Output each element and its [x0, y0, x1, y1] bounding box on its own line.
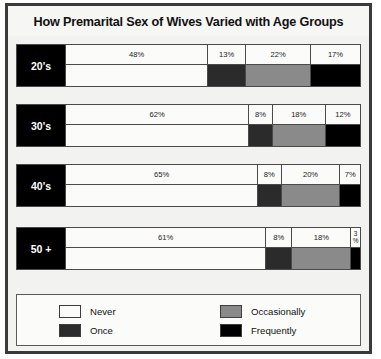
legend-column: NeverOnce — [59, 302, 116, 340]
age-group-row: 40's65%8%20%7% — [16, 164, 361, 207]
bar-segment — [339, 185, 360, 206]
legend-item: Once — [59, 321, 116, 340]
legend-column: OccasionallyFrequently — [220, 302, 305, 340]
bar-segment — [248, 125, 272, 146]
stacked-bar: 65%8%20%7% — [65, 165, 360, 206]
legend-swatch-icon — [220, 305, 242, 318]
bar-color-strip — [66, 65, 360, 86]
bar-color-strip — [66, 185, 360, 206]
bar-segment — [245, 65, 310, 86]
bar-segment — [265, 248, 291, 269]
age-group-label: 50 + — [17, 228, 65, 269]
age-group-label: 30's — [17, 105, 65, 146]
percent-label-strip: 62%8%18%12% — [66, 105, 360, 125]
segment-percent-label: 18% — [291, 228, 350, 247]
segment-percent-label: 18% — [272, 105, 325, 124]
percent-label-strip: 65%8%20%7% — [66, 165, 360, 185]
chart-frame: How Premarital Sex of Wives Varied with … — [5, 3, 372, 354]
title-band: How Premarital Sex of Wives Varied with … — [8, 6, 369, 36]
segment-percent-label: 3% — [350, 228, 360, 247]
segment-percent-label: 65% — [66, 165, 257, 184]
stacked-bar: 62%8%18%12% — [65, 105, 360, 146]
chart-legend: NeverOnceOccasionallyFrequently — [16, 294, 361, 346]
age-group-row: 50 +61%8%18%3% — [16, 227, 361, 270]
age-group-row: 20's48%13%22%17% — [16, 44, 361, 87]
percent-label-strip: 48%13%22%17% — [66, 45, 360, 65]
legend-label: Occasionally — [251, 306, 305, 317]
age-group-row: 30's62%8%18%12% — [16, 104, 361, 147]
legend-item: Frequently — [220, 321, 305, 340]
legend-swatch-icon — [59, 305, 81, 318]
stacked-bar: 48%13%22%17% — [65, 45, 360, 86]
age-group-label: 20's — [17, 45, 65, 86]
segment-percent-label: 8% — [265, 228, 291, 247]
bar-segment — [66, 248, 265, 269]
legend-label: Frequently — [251, 325, 296, 336]
segment-percent-label: 22% — [245, 45, 310, 64]
segment-percent-label: 61% — [66, 228, 265, 247]
bar-segment — [66, 185, 257, 206]
bar-segment — [310, 65, 360, 86]
bar-segment — [291, 248, 350, 269]
bar-color-strip — [66, 125, 360, 146]
legend-swatch-icon — [220, 324, 242, 337]
legend-swatch-icon — [59, 324, 81, 337]
segment-percent-label: 8% — [248, 105, 272, 124]
segment-percent-label: 8% — [257, 165, 281, 184]
segment-percent-label: 20% — [281, 165, 340, 184]
age-group-label: 40's — [17, 165, 65, 206]
chart-title: How Premarital Sex of Wives Varied with … — [34, 14, 344, 29]
legend-label: Once — [90, 325, 113, 336]
bar-segment — [66, 65, 207, 86]
bar-segment — [257, 185, 281, 206]
segment-percent-label: 62% — [66, 105, 248, 124]
bar-color-strip — [66, 248, 360, 269]
percent-label-strip: 61%8%18%3% — [66, 228, 360, 248]
legend-item: Occasionally — [220, 302, 305, 321]
segment-percent-label: 13% — [207, 45, 245, 64]
legend-label: Never — [90, 306, 116, 317]
legend-item: Never — [59, 302, 116, 321]
bar-segment — [207, 65, 245, 86]
stacked-bar: 61%8%18%3% — [65, 228, 360, 269]
bar-segment — [272, 125, 325, 146]
bar-segment — [325, 125, 360, 146]
bar-segment — [281, 185, 340, 206]
segment-percent-label: 48% — [66, 45, 207, 64]
segment-percent-label: 12% — [325, 105, 360, 124]
segment-percent-label: 17% — [310, 45, 360, 64]
segment-percent-label: 7% — [339, 165, 360, 184]
bar-segment — [350, 248, 360, 269]
bar-segment — [66, 125, 248, 146]
